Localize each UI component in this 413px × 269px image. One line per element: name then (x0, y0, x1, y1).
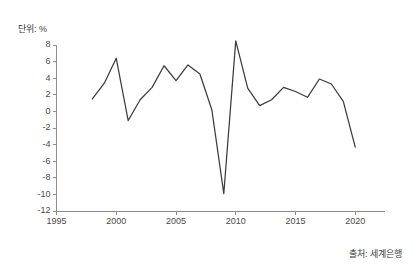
x-tick-label: 2000 (106, 216, 126, 226)
x-axis-group: 199520002005201020152020 (46, 211, 385, 226)
chart-plot-area: 86420-2-4-6-8-10-12 19952000200520102015… (0, 0, 413, 269)
y-tick-label: 4 (45, 73, 50, 83)
data-series-group (92, 41, 355, 194)
y-axis-group: 86420-2-4-6-8-10-12 (37, 39, 56, 215)
y-tick-label: -10 (37, 189, 50, 199)
x-tick-label: 2020 (345, 216, 365, 226)
y-tick-label: 2 (45, 89, 50, 99)
y-tick-label: -12 (37, 205, 50, 215)
data-line-경제성장률 (92, 41, 355, 194)
y-tick-label: -8 (42, 172, 50, 182)
y-tick-label: 6 (45, 56, 50, 66)
economic-growth-line-chart: 단위: % 86420-2-4-6-8-10-12 19952000200520… (0, 0, 413, 269)
x-tick-label: 2015 (285, 216, 305, 226)
y-tick-label: 8 (45, 39, 50, 49)
y-tick-label: 0 (45, 106, 50, 116)
x-tick-label: 2010 (226, 216, 246, 226)
source-label: 출처: 세계은행 (349, 247, 402, 260)
x-tick-label: 2005 (166, 216, 186, 226)
y-tick-label: -4 (42, 139, 50, 149)
y-tick-label: -2 (42, 122, 50, 132)
y-tick-label: -6 (42, 156, 50, 166)
x-tick-label: 1995 (46, 216, 66, 226)
